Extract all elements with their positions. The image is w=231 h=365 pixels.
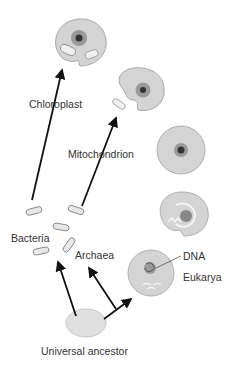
nucleus-forming-cell	[160, 192, 208, 236]
mitochondrion-arrow	[82, 118, 116, 206]
label-universal-ancestor: Universal ancestor	[41, 346, 128, 357]
dna-icon	[180, 210, 192, 222]
ancestor-to-eukarya-arrow	[104, 299, 131, 319]
ancestor-to-archaea-arrow	[89, 268, 116, 309]
ancestor-to-bacteria-arrow	[58, 262, 76, 316]
chloroplast-arrow	[32, 70, 62, 200]
cell-with-mitochondrion	[112, 68, 165, 111]
label-archaea: Archaea	[75, 250, 114, 261]
label-bacteria: Bacteria	[11, 233, 50, 244]
nucleated-cell	[157, 126, 205, 174]
label-dna: DNA	[183, 251, 205, 262]
universal-ancestor-cell	[66, 309, 106, 337]
label-mitochondrion: Mitochondrion	[68, 149, 134, 160]
label-eukarya: Eukarya	[183, 272, 222, 283]
eukarya-cell	[128, 250, 181, 296]
diagram-canvas	[0, 0, 231, 365]
mitochondrion-icon	[112, 98, 127, 111]
cell-with-chloroplast	[56, 19, 107, 66]
label-chloroplast: Chloroplast	[29, 99, 82, 110]
